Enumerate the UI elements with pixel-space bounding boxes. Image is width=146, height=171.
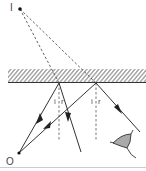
reflection-diagram xyxy=(0,0,146,171)
object-point-label: O xyxy=(6,157,14,167)
incidence-angle-label-2: i xyxy=(91,98,93,106)
object-point-O xyxy=(17,151,20,154)
image-point-label: I xyxy=(10,3,13,13)
reflection-angle-label-2: r xyxy=(98,98,101,106)
incident-ray-2 xyxy=(19,83,96,153)
mirror xyxy=(8,69,146,83)
eye-icon xyxy=(110,130,136,158)
arrowheads xyxy=(36,104,122,129)
reflected-ray-1 xyxy=(59,83,81,152)
image-point-I xyxy=(18,7,22,11)
arrow-icon xyxy=(36,113,43,124)
reflection-angle-label-1: r xyxy=(61,98,64,106)
arrow-icon xyxy=(114,104,122,114)
incidence-angle-label-1: i xyxy=(54,98,56,106)
arrow-icon xyxy=(43,121,51,129)
